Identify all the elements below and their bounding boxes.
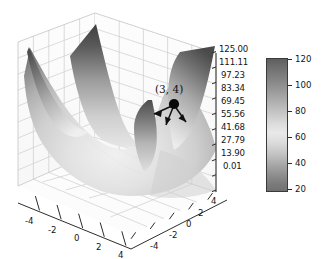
z-tick-label: 111.11 (219, 57, 248, 67)
annotation-point-marker (169, 99, 179, 109)
z-tick-label: 97.23 (221, 70, 245, 80)
colorbar (266, 58, 288, 192)
z-tick-label: 55.56 (221, 109, 245, 119)
colorbar-tick-mark (288, 137, 292, 138)
z-tick-label: 69.45 (221, 96, 245, 106)
z-tick-label: 83.34 (221, 83, 245, 93)
y-tick-label: -4 (150, 241, 159, 251)
colorbar-tick-label: 100 (295, 80, 311, 90)
z-tick-label: 41.68 (221, 122, 245, 132)
z-tick-label: 125.00 (219, 44, 248, 54)
y-tick-label: 4 (211, 196, 216, 206)
colorbar-tick-label: 20 (295, 184, 306, 194)
y-tick-label: 0 (186, 219, 191, 229)
colorbar-tick-label: 80 (295, 106, 306, 116)
colorbar-tick-mark (288, 59, 292, 60)
surface-plot-3d (0, 0, 250, 259)
x-tick-label: 2 (96, 242, 101, 252)
colorbar-gradient (266, 58, 288, 192)
y-tick-label: -2 (169, 230, 178, 240)
annotation-label: (3, 4) (155, 83, 183, 95)
z-tick-label: 13.90 (221, 148, 245, 158)
x-tick-label: 0 (74, 233, 79, 243)
x-tick-label: -4 (25, 216, 34, 226)
figure-canvas: (3, 4) 125.00 111.11 97.23 83.34 69.45 5… (0, 0, 321, 259)
plot-svg (0, 0, 250, 259)
colorbar-tick-label: 60 (295, 132, 306, 142)
x-tick-label: -2 (48, 225, 57, 235)
colorbar-tick-label: 40 (295, 158, 306, 168)
z-tick-label: 0.01 (223, 161, 242, 171)
z-tick-label: 27.79 (221, 135, 245, 145)
colorbar-tick-label: 120 (295, 54, 311, 64)
colorbar-tick-mark (288, 189, 292, 190)
y-tick-label: 2 (198, 208, 203, 218)
colorbar-tick-mark (288, 85, 292, 86)
colorbar-tick-mark (288, 163, 292, 164)
colorbar-tick-mark (288, 111, 292, 112)
x-tick-label: 4 (118, 250, 123, 259)
